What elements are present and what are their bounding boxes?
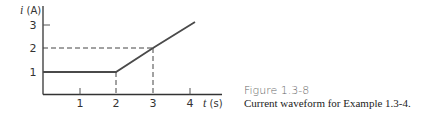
y-axis-label-unit: (A) <box>23 5 41 16</box>
y-tick-label-1: 1 <box>30 66 37 79</box>
figure-caption: Current waveform for Example 1.3-4. <box>244 97 411 109</box>
y-axis-label: i (A) <box>20 3 41 17</box>
figure-number: Figure 1.3-8 <box>244 84 309 97</box>
y-tick-label-2: 2 <box>30 42 37 55</box>
y-tick-label-3: 3 <box>30 19 37 32</box>
x-axis-label-unit: (s) <box>206 98 222 109</box>
x-tick-label-2: 2 <box>113 97 120 110</box>
current-waveform-line <box>43 22 195 72</box>
x-axis-label: t (s) <box>203 96 223 110</box>
current-waveform-chart: 3 2 1 1 2 3 4 i (A) t (s) <box>0 0 230 121</box>
x-tick-label-3: 3 <box>150 97 157 110</box>
x-tick-label-4: 4 <box>187 97 194 110</box>
x-tick-label-1: 1 <box>77 97 84 110</box>
